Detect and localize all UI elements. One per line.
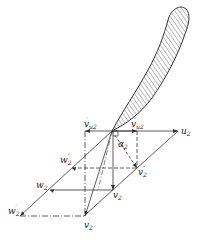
aux-line	[98, 131, 112, 190]
label-vu2-dprime: vu2″	[131, 116, 144, 130]
label-w2: w2	[36, 180, 48, 191]
right-angle-mark	[113, 131, 118, 136]
label-w2-prime: w2′	[8, 203, 20, 217]
label-u2: u2	[181, 126, 191, 137]
velocity-triangle-diagram: vu2′ vu2″ u2 α2 w2″ v2″ w2 v2 w2′ v2′	[0, 0, 200, 240]
label-alpha2: α2	[118, 139, 128, 150]
label-v2-dprime: v2″	[138, 164, 147, 178]
label-v2-prime: v2′	[84, 217, 93, 231]
label-v2: v2	[113, 190, 122, 201]
label-vu2-prime: vu2′	[84, 116, 97, 130]
blade-profile	[112, 7, 189, 131]
label-w2-dprime: w2″	[60, 152, 72, 166]
